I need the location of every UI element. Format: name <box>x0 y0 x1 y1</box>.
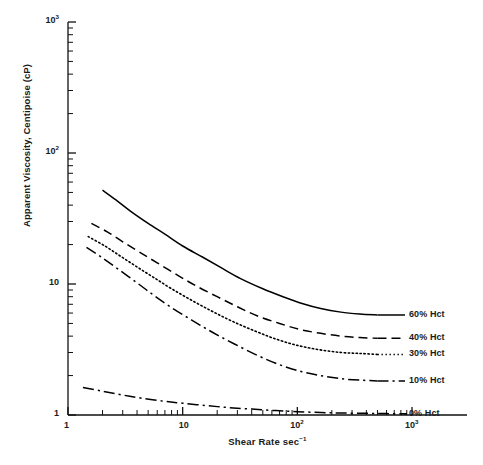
y-tick-label-2: 102 <box>46 147 59 156</box>
label-10-hct: 10% Hct <box>409 375 445 385</box>
x-tick-label-1: 10 <box>179 421 189 430</box>
x-axis-title: Shear Rate sec−1 <box>0 436 483 447</box>
series-line-30-hct <box>88 237 377 355</box>
series-line-0-hct <box>83 388 407 414</box>
x-tick-label-3: 103 <box>405 421 418 430</box>
y-tick-label-1: 10 <box>49 278 59 287</box>
label-30-hct: 30% Hct <box>409 348 445 358</box>
chart-plot-area <box>0 0 483 465</box>
chart-figure: Apparent Viscosity, Centipoise (cP) Shea… <box>0 0 483 465</box>
y-tick-label-0: 1 <box>54 409 59 418</box>
y-tick-label-3: 103 <box>46 16 59 25</box>
label-0-hct: 0% Hct <box>409 408 440 418</box>
label-60-hct: 60% Hct <box>409 309 445 319</box>
y-axis-title: Apparent Viscosity, Centipoise (cP) <box>21 46 32 246</box>
series-line-60-hct <box>103 190 378 315</box>
label-40-hct: 40% Hct <box>409 332 445 342</box>
x-tick-label-0: 1 <box>64 421 69 430</box>
x-tick-label-2: 102 <box>290 421 303 430</box>
series-line-10-hct <box>87 247 378 380</box>
